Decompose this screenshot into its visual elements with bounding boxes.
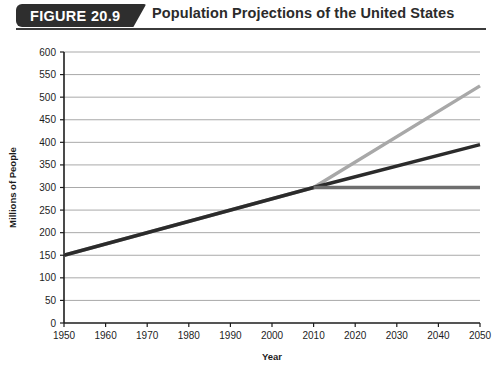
- y-tick-label-100: 100: [39, 272, 56, 283]
- x-tick-label-2000: 2000: [261, 330, 284, 341]
- x-tick-label-2050: 2050: [469, 330, 492, 341]
- y-axis-title: Millions of People: [7, 147, 18, 228]
- x-tick-label-1970: 1970: [136, 330, 159, 341]
- x-tick-label-1960: 1960: [94, 330, 117, 341]
- figure-number-badge: FIGURE 20.9: [16, 4, 146, 27]
- y-tick-label-450: 450: [39, 114, 56, 125]
- y-tick-label-0: 0: [50, 318, 56, 329]
- y-tick-label-350: 350: [39, 159, 56, 170]
- gridlines: [64, 52, 480, 300]
- y-tick-labels: 050100150200250300350400450500550600: [39, 47, 56, 329]
- header-divider: [16, 28, 486, 30]
- series-line-middle-projection: [64, 145, 480, 256]
- y-tick-label-400: 400: [39, 137, 56, 148]
- x-tick-label-1980: 1980: [178, 330, 201, 341]
- x-tick-label-1950: 1950: [53, 330, 76, 341]
- figure-title: Population Projections of the United Sta…: [152, 5, 454, 21]
- y-tick-label-200: 200: [39, 227, 56, 238]
- x-tick-label-2030: 2030: [386, 330, 409, 341]
- y-tick-label-500: 500: [39, 92, 56, 103]
- x-tick-label-1990: 1990: [219, 330, 242, 341]
- y-tick-label-150: 150: [39, 250, 56, 261]
- y-tick-label-300: 300: [39, 182, 56, 193]
- y-tick-label-250: 250: [39, 205, 56, 216]
- x-tick-label-2010: 2010: [302, 330, 325, 341]
- data-series-group: [64, 86, 480, 255]
- x-tick-label-2020: 2020: [344, 330, 367, 341]
- y-tick-label-550: 550: [39, 69, 56, 80]
- figure-header: FIGURE 20.9 Population Projections of th…: [0, 0, 502, 32]
- x-axis-title: Year: [262, 351, 282, 362]
- x-tick-label-2040: 2040: [427, 330, 450, 341]
- y-tick-label-50: 50: [45, 295, 57, 306]
- population-projections-line-chart: 050100150200250300350400450500550600 195…: [0, 32, 502, 365]
- y-tick-label-600: 600: [39, 47, 56, 58]
- chart-region: 050100150200250300350400450500550600 195…: [0, 32, 502, 365]
- x-tick-labels: 1950196019701980199020002010202020302040…: [53, 330, 492, 341]
- series-line-high-projection: [64, 86, 480, 255]
